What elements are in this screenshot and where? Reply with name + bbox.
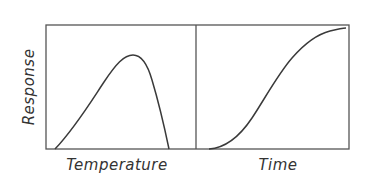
- plot-area: [0, 0, 366, 179]
- x-axis-label-temperature: Temperature: [66, 156, 168, 174]
- temperature-response-curve: [55, 55, 169, 149]
- response-curves-figure: Response Temperature Time: [0, 0, 366, 179]
- plot-frame: [46, 25, 349, 149]
- x-axis-label-time: Time: [258, 156, 297, 174]
- time-response-curve: [209, 28, 346, 149]
- y-axis-label: Response: [20, 49, 38, 126]
